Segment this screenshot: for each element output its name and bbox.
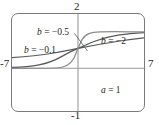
y-min-label: -1 — [71, 110, 80, 121]
curve-label-b-neg-2: b = −2 — [101, 37, 126, 47]
parameter-label-a-relation: = 1 — [106, 85, 121, 95]
viewing-window-frame — [11, 13, 145, 112]
parameter-label-a: a = 1 — [101, 86, 121, 96]
curve-label-b-neg-0-1-relation: = −0.1 — [29, 45, 56, 55]
x-min-label: -7 — [0, 58, 9, 69]
curve-label-b-neg-0-1: b = −0.1 — [24, 46, 56, 56]
figure-container: 2 -1 -7 7 b = −0.5 b = −2 b = −0.1 a = 1 — [0, 0, 159, 125]
curve-label-b-neg-0-5-relation: = −0.5 — [42, 27, 69, 37]
y-max-label: 2 — [74, 1, 80, 12]
curve-label-b-neg-0-5: b = −0.5 — [37, 28, 69, 38]
curve-label-b-neg-2-relation: = −2 — [106, 36, 126, 46]
x-max-label: 7 — [148, 58, 154, 69]
